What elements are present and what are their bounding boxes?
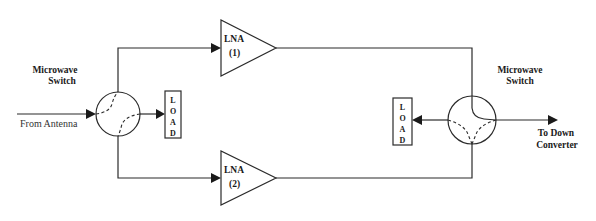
svg-text:(1): (1) xyxy=(229,48,240,59)
right-load-termination: L O A D xyxy=(393,98,412,145)
right-switch-label-line1: Microwave xyxy=(497,65,542,75)
svg-text:D: D xyxy=(400,136,406,145)
output-connection xyxy=(496,115,558,125)
svg-text:O: O xyxy=(170,107,176,116)
arrow-right-icon xyxy=(211,43,221,53)
redundant-lna-block-diagram: From Antenna Microwave Switch L O A D LN… xyxy=(0,0,596,221)
arrow-right-icon xyxy=(548,115,558,125)
output-label-line1: To Down xyxy=(538,128,575,138)
wire-switch1-to-lna1 xyxy=(118,48,214,92)
arrow-right-icon xyxy=(211,173,221,183)
wire-switch1-to-lna2 xyxy=(118,136,214,178)
arrow-right-icon xyxy=(156,109,165,119)
svg-text:(2): (2) xyxy=(229,179,240,190)
wire-lna2-to-switch2 xyxy=(276,144,472,178)
arrow-right-icon xyxy=(86,109,96,119)
svg-text:L: L xyxy=(400,103,405,112)
lna-2-amplifier: LNA (2) xyxy=(221,151,276,205)
lna-1-amplifier: LNA (1) xyxy=(221,20,276,76)
right-microwave-switch xyxy=(448,96,496,144)
svg-text:A: A xyxy=(170,118,176,127)
svg-text:LNA: LNA xyxy=(224,165,244,175)
wire-lna1-to-switch2 xyxy=(276,48,472,96)
input-label: From Antenna xyxy=(20,118,78,129)
left-switch-label-line2: Switch xyxy=(48,76,76,86)
left-microwave-switch xyxy=(96,92,140,136)
svg-text:D: D xyxy=(170,129,176,138)
output-label-line2: Converter xyxy=(536,140,578,150)
svg-text:O: O xyxy=(399,114,405,123)
right-switch-label-line2: Switch xyxy=(506,76,534,86)
left-load-termination: L O A D xyxy=(165,91,181,138)
arrow-left-icon xyxy=(412,115,422,125)
left-switch-label-line1: Microwave xyxy=(32,65,77,75)
svg-text:A: A xyxy=(400,125,406,134)
svg-text:L: L xyxy=(170,96,175,105)
svg-text:LNA: LNA xyxy=(224,34,244,44)
